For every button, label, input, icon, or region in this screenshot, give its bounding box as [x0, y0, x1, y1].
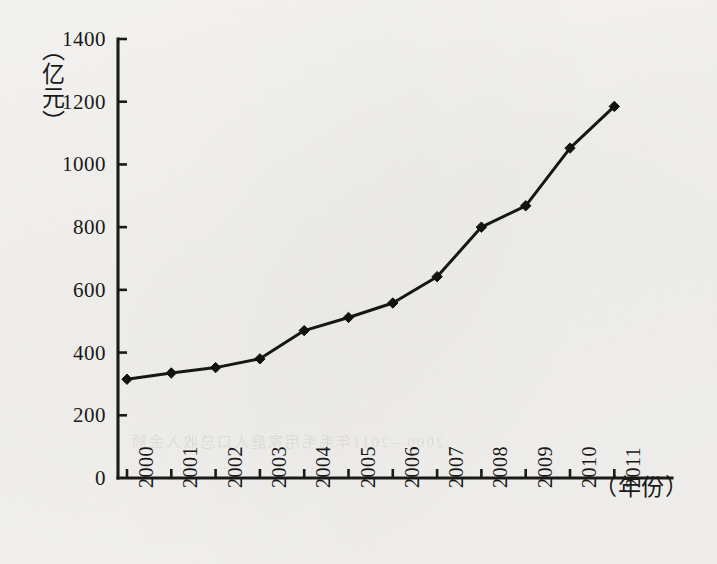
x-axis-tick-label: 2006 — [401, 446, 424, 488]
data-point-marker — [122, 374, 132, 384]
data-point-marker — [210, 362, 220, 372]
data-point-marker — [166, 368, 176, 378]
y-axis-tick-label: 0 — [95, 466, 106, 491]
y-axis-tick-label: 200 — [73, 403, 106, 428]
y-axis-tick-label: 800 — [73, 215, 106, 240]
y-axis-tick-label: 400 — [73, 340, 106, 365]
y-axis-tick-label: 600 — [73, 277, 106, 302]
x-axis-tick-label: 2009 — [534, 446, 557, 488]
x-axis-tick-label: 2003 — [268, 446, 291, 488]
x-axis-tick-label: 2002 — [224, 446, 247, 488]
x-axis-unit-label: （年份） — [594, 468, 688, 502]
x-axis-tick-label: 2008 — [489, 446, 512, 488]
y-axis-tick-label: 1200 — [62, 89, 106, 114]
x-axis-tick-label: 2007 — [445, 446, 468, 488]
data-point-marker — [343, 312, 353, 322]
y-axis-tick-label: 1000 — [62, 152, 106, 177]
data-series-line — [127, 106, 614, 379]
x-axis-tick-label: 2001 — [179, 446, 202, 488]
x-axis-tick-label: 2000 — [135, 446, 158, 488]
x-axis-tick-label: 2005 — [357, 446, 380, 488]
data-point-markers — [122, 101, 620, 384]
y-axis-tick-label: 1400 — [62, 27, 106, 52]
x-axis-tick-label: 2004 — [312, 446, 335, 488]
chart-page: 2000—2011年毛毛用家庭人口总收入金额 （亿元） 020040060080… — [0, 0, 717, 564]
